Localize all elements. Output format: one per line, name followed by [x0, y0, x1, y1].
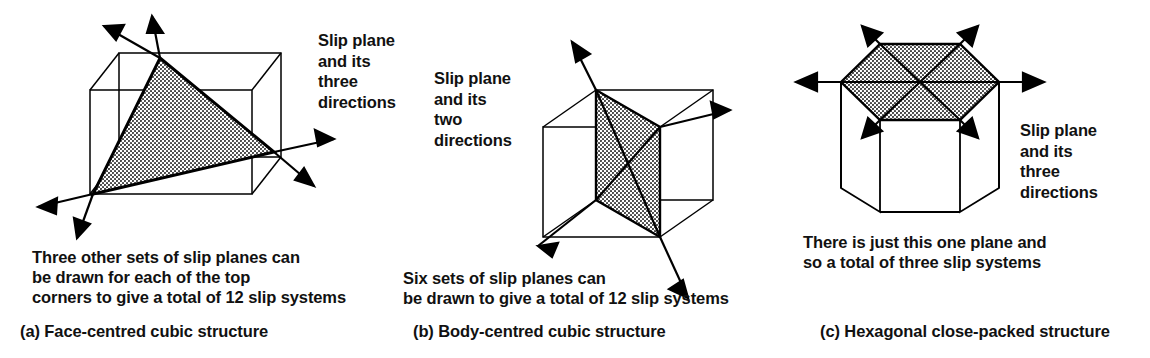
bcc-slip-plane: [596, 90, 660, 237]
bcc-callout-label: Slip plane and its two directions: [434, 68, 512, 150]
fcc-callout-label: Slip plane and its three directions: [318, 30, 396, 112]
slip-systems-figure: Slip plane and its three directions Thre…: [0, 0, 1150, 358]
bcc-caption: (b) Body-centred cubic structure: [413, 322, 666, 342]
hcp-slip-plane: [841, 44, 999, 120]
panel-face-centred-cubic: Slip plane and its three directions Thre…: [0, 0, 400, 358]
panel-body-centred-cubic: Slip plane and its two directions Six se…: [400, 0, 780, 358]
hcp-callout-label: Slip plane and its three directions: [1020, 120, 1098, 202]
fcc-caption: (a) Face-centred cubic structure: [20, 322, 268, 342]
panel-hexagonal-close-packed: Slip plane and its three directions Ther…: [780, 0, 1150, 358]
bcc-note-text: Six sets of slip planes can be drawn to …: [403, 268, 729, 308]
hcp-note-text: There is just this one plane and so a to…: [803, 232, 1046, 272]
hcp-caption: (c) Hexagonal close-packed structure: [820, 322, 1110, 342]
fcc-note-text: Three other sets of slip planes can be d…: [32, 247, 346, 307]
fcc-slip-plane: [93, 58, 274, 194]
